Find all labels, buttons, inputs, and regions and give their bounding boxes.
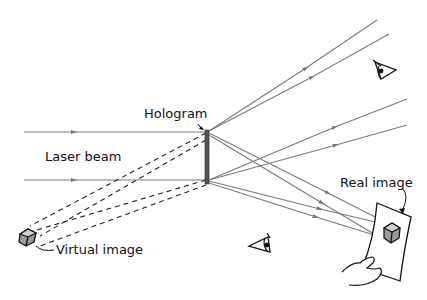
virtual-image-pointer bbox=[36, 246, 54, 251]
virtual-image-label: Virtual image bbox=[56, 243, 143, 256]
hologram-plate bbox=[205, 130, 209, 184]
diffracted-rays-upper bbox=[209, 20, 389, 131]
laser-beam-label: Laser beam bbox=[45, 150, 121, 163]
virtual-cube-icon bbox=[19, 229, 36, 246]
real-image-pointer bbox=[402, 188, 406, 211]
eye-lower-icon bbox=[249, 233, 270, 252]
hologram-label: Hologram bbox=[144, 107, 208, 120]
real-image-label: Real image bbox=[340, 176, 413, 189]
hologram-diagram: Hologram Laser beam Virtual image Real i… bbox=[0, 0, 427, 300]
eye-upper-icon bbox=[373, 60, 396, 79]
